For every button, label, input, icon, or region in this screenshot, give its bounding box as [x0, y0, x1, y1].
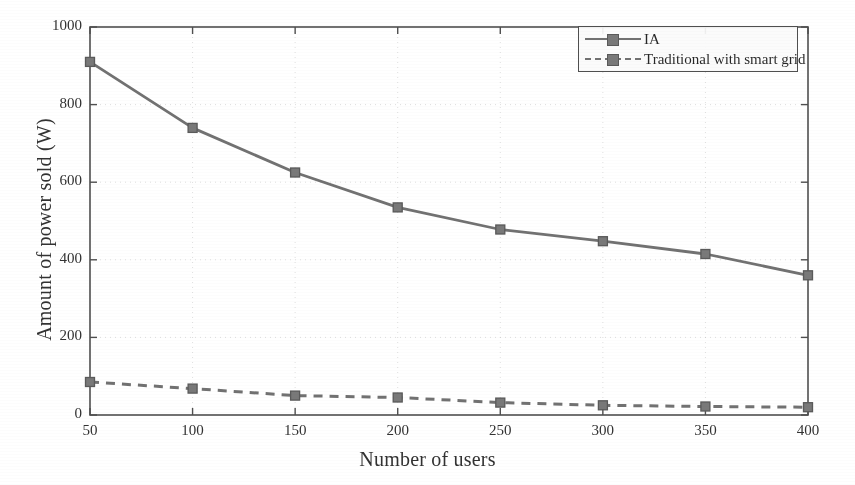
- y-tick-label: 0: [30, 405, 82, 422]
- x-tick-label: 350: [680, 422, 730, 439]
- data-point-marker: [291, 391, 300, 400]
- y-tick-label: 800: [30, 95, 82, 112]
- gridlines: [90, 27, 808, 415]
- x-axis-title: Number of users: [0, 448, 855, 471]
- x-tick-label: 100: [168, 422, 218, 439]
- data-point-marker: [701, 250, 710, 259]
- plot-canvas: [0, 0, 855, 485]
- legend-label-traditional: Traditional with smart grid: [644, 51, 806, 68]
- data-point-marker: [188, 384, 197, 393]
- data-point-marker: [496, 398, 505, 407]
- legend-line-solid-icon: [585, 32, 641, 46]
- axes-frame: [90, 27, 808, 415]
- data-point-marker: [598, 401, 607, 410]
- y-axis-title: Amount of power sold (W): [33, 100, 56, 360]
- data-point-marker: [393, 203, 402, 212]
- x-tick-label: 50: [65, 422, 115, 439]
- chart-figure: Amount of power sold (W) Number of users…: [0, 0, 855, 485]
- x-tick-label: 200: [373, 422, 423, 439]
- data-point-marker: [188, 123, 197, 132]
- x-tick-label: 250: [475, 422, 525, 439]
- data-point-marker: [804, 403, 813, 412]
- series-line-0: [90, 62, 808, 275]
- legend-line-dashed-icon: [585, 52, 641, 66]
- data-point-marker: [86, 378, 95, 387]
- data-point-marker: [701, 402, 710, 411]
- axis-ticks: [90, 27, 808, 415]
- y-tick-label: 600: [30, 172, 82, 189]
- y-tick-label: 1000: [30, 17, 82, 34]
- x-tick-label: 300: [578, 422, 628, 439]
- x-tick-label: 150: [270, 422, 320, 439]
- x-tick-label: 400: [783, 422, 833, 439]
- data-point-marker: [496, 225, 505, 234]
- data-point-marker: [598, 237, 607, 246]
- data-series-layer: [86, 57, 813, 411]
- legend-label-ia: IA: [644, 31, 660, 48]
- y-tick-label: 400: [30, 250, 82, 267]
- legend-item-traditional: Traditional with smart grid: [585, 49, 806, 69]
- y-tick-label: 200: [30, 327, 82, 344]
- data-point-marker: [291, 168, 300, 177]
- legend-item-ia: IA: [585, 29, 660, 49]
- chart-legend: IA Traditional with smart grid: [578, 26, 798, 72]
- data-point-marker: [804, 271, 813, 280]
- data-point-marker: [86, 57, 95, 66]
- data-point-marker: [393, 393, 402, 402]
